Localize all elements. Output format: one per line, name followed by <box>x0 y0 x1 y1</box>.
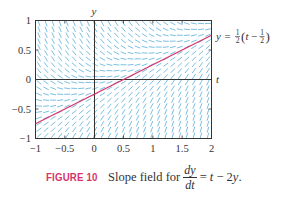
rhs-period: . <box>238 170 241 184</box>
curve-label-half-den: 2 <box>236 36 240 45</box>
fraction-denominator: dt <box>185 178 194 191</box>
caption-text: Slope field for <box>108 170 180 185</box>
derivative-fraction: dy dt <box>183 164 196 191</box>
x-tick-label: 1.5 <box>176 143 189 154</box>
y-tick-labels: −1−0.500.51 <box>12 15 31 144</box>
x-tick-label: 1 <box>150 143 155 154</box>
slope-field-figure: y t −1−0.500.51 −1−0.500.511.52 y = 1 2 … <box>0 0 282 160</box>
curve-label-inner-den: 2 <box>260 36 264 45</box>
y-axis-label: y <box>91 5 97 17</box>
x-tick-label: −0.5 <box>55 143 74 154</box>
rhs-equals: = <box>200 170 207 184</box>
curve-label-t: t <box>246 30 250 42</box>
y-tick-label: 0 <box>26 74 31 85</box>
y-tick-label: −0.5 <box>12 104 31 115</box>
figure-number: FIGURE 10 <box>46 171 98 183</box>
curve-label-minus: − <box>251 30 257 42</box>
x-tick-labels: −1−0.500.511.52 <box>30 143 214 154</box>
y-tick-label: 0.5 <box>18 45 31 56</box>
x-tick-label: −1 <box>30 143 41 154</box>
rhs-minus-two: − 2 <box>213 170 233 184</box>
curve-label: y = 1 2 ( t − 1 2 ) <box>215 28 270 46</box>
t-axis-label: t <box>216 73 220 85</box>
x-tick-label: 2 <box>209 143 214 154</box>
fraction-numerator: dy <box>183 164 196 178</box>
figure-caption: FIGURE 10 Slope field for dy dt = t − 2y… <box>46 162 242 192</box>
curve-label-paren-close: ) <box>266 29 270 44</box>
x-tick-label: 0.5 <box>117 143 130 154</box>
caption-equation-rhs: = t − 2y. <box>200 170 242 185</box>
x-tick-label: 0 <box>92 143 97 154</box>
curve-label-lhs: y = <box>215 30 231 42</box>
y-tick-label: 1 <box>26 15 31 26</box>
